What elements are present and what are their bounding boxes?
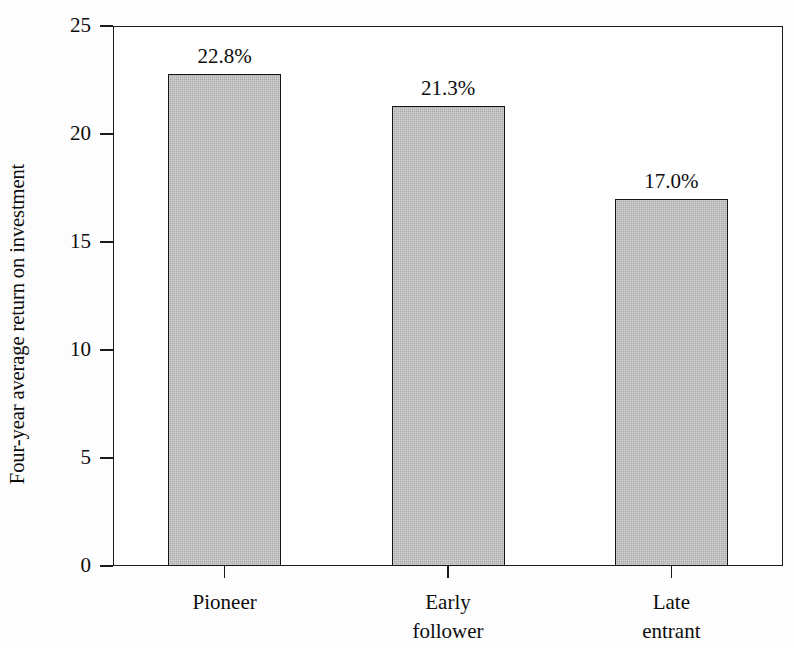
bar-value-label: 22.8% — [145, 44, 305, 68]
x-category-line2: follower — [348, 617, 548, 646]
y-tick-mark — [100, 241, 113, 243]
y-tick-label: 10 — [70, 336, 91, 362]
bar-late-entrant[interactable] — [615, 199, 728, 566]
x-tick-mark — [671, 566, 673, 578]
y-tick-mark — [100, 349, 113, 351]
y-tick-mark — [100, 565, 113, 567]
x-tick-mark — [447, 566, 449, 578]
y-tick-mark — [100, 133, 113, 135]
x-category-line1: Pioneer — [125, 588, 325, 617]
x-category-label-late-entrant: Late entrant — [571, 588, 771, 646]
y-tick-label: 15 — [70, 228, 91, 254]
y-tick-label: 20 — [70, 120, 91, 146]
y-tick-label: 25 — [70, 12, 91, 38]
y-tick-label: 5 — [81, 444, 92, 470]
x-category-label-early-follower: Early follower — [348, 588, 548, 646]
x-category-line1: Late — [571, 588, 771, 617]
bar-early-follower[interactable] — [392, 106, 505, 566]
y-tick-label: 0 — [81, 552, 92, 578]
bar-chart-figure: Four-year average return on investment 2… — [0, 0, 794, 648]
x-tick-mark — [224, 566, 226, 578]
x-category-line1: Early — [348, 588, 548, 617]
bar-value-label: 17.0% — [591, 169, 751, 193]
y-tick-mark — [100, 457, 113, 459]
y-tick-mark — [100, 25, 113, 27]
x-category-line2: entrant — [571, 617, 771, 646]
x-category-label-pioneer: Pioneer — [125, 588, 325, 617]
y-axis-title: Four-year average return on investment — [0, 0, 34, 648]
bar-pioneer[interactable] — [168, 74, 281, 566]
bar-value-label: 21.3% — [368, 76, 528, 100]
